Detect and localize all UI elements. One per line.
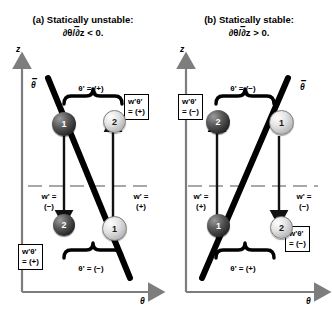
parcel-1-upper-a: 1: [52, 112, 76, 136]
z-axis-label-b: z: [180, 44, 184, 54]
theta-overbar-b: –: [300, 79, 307, 82]
flux-box-top-a: w'θ' = (+): [124, 94, 149, 120]
parcel-1-upper-b: 1: [269, 110, 294, 135]
panel-a: (a) Statically unstable: ∂θ/∂z < 0. –: [0, 0, 166, 313]
w-prime-right-label-b: w' = (−): [286, 192, 322, 211]
z-axis-label-a: z: [16, 44, 20, 54]
brace-top-label-b: θ' = (−): [213, 84, 273, 94]
w-prime-right-label-a: w' = (+): [123, 192, 159, 211]
flux-box-top-b: w'θ' = (−): [178, 94, 203, 120]
parcel-2-lower-a: 2: [53, 214, 75, 236]
parcel-2-upper-a: 2: [103, 110, 126, 133]
w-prime-left-label-a: w' = (−): [31, 192, 67, 211]
theta-overbar-a: –: [31, 77, 38, 80]
panel-b: (b) Statically stable: ∂θ/∂z > 0. – z θ: [166, 0, 332, 313]
theta-axis-label-a: θ: [140, 296, 145, 306]
parcel-2-lower-b: 2: [270, 216, 293, 239]
brace-bottom-label-a: θ' = (−): [61, 264, 121, 274]
parcel-1-lower-b: 1: [207, 214, 230, 237]
panel-a-labels: z θ θ – θ' = (+) θ' = (−) w' = (−) w' = …: [0, 0, 166, 313]
w-prime-left-label-b: w' = (+): [183, 192, 219, 211]
parcel-1-lower-a: 1: [102, 216, 127, 241]
theta-bar-label-a: θ –: [31, 80, 36, 90]
theta-bar-label-b: θ –: [300, 82, 305, 92]
brace-bottom-label-b: θ' = (+): [213, 264, 273, 274]
brace-top-label-a: θ' = (+): [61, 84, 121, 94]
flux-box-bottom-a: w'θ' = (+): [18, 244, 43, 270]
theta-axis-label-b: θ: [306, 296, 311, 306]
parcel-2-upper-b: 2: [206, 110, 230, 134]
panel-b-labels: z θ θ – θ' = (−) θ' = (+) w' = (+) w' = …: [166, 0, 332, 313]
